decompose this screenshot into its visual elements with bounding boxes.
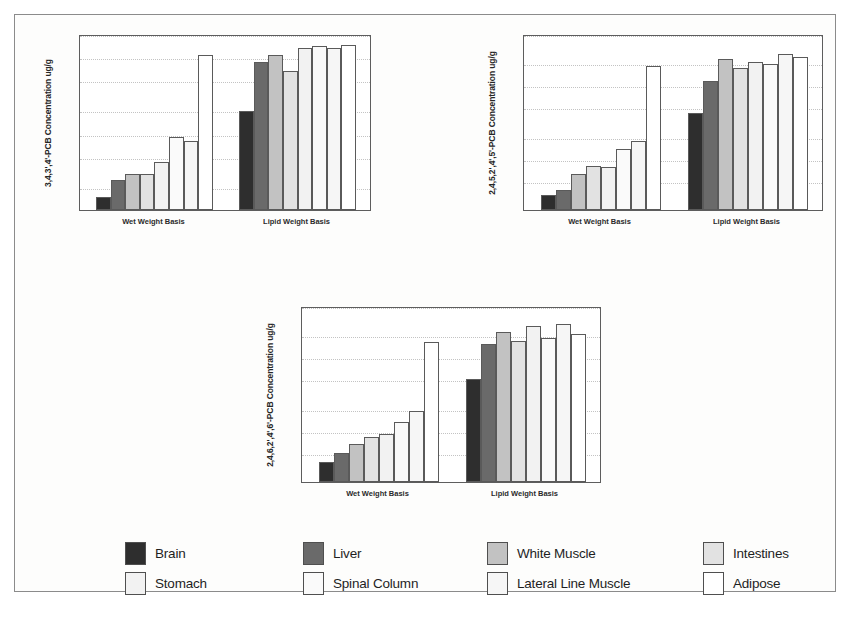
figure-frame: 3,4,3',4'-PCB Concentration ug/g0.10.20.… xyxy=(14,14,836,592)
y-tick-mark xyxy=(301,433,302,434)
bar xyxy=(778,54,793,210)
bar xyxy=(616,149,631,210)
bar xyxy=(601,167,616,210)
legend-swatch-icon xyxy=(125,572,146,595)
bar xyxy=(319,462,334,482)
bar xyxy=(379,434,394,482)
bar xyxy=(184,141,199,210)
bar xyxy=(703,81,718,210)
y-tick-mark xyxy=(301,308,302,309)
bar xyxy=(763,64,778,210)
y-tick-mark xyxy=(79,82,80,83)
gridline xyxy=(80,36,370,37)
bar xyxy=(283,71,298,210)
bar xyxy=(526,326,541,482)
legend-item[interactable]: White Muscle xyxy=(487,538,596,568)
bar xyxy=(586,166,601,210)
y-tick-mark xyxy=(523,65,524,66)
y-tick-mark xyxy=(523,161,524,162)
y-tick-mark xyxy=(79,112,80,113)
legend-label: Adipose xyxy=(733,576,780,591)
bar xyxy=(96,197,111,210)
bar xyxy=(140,174,155,210)
bar xyxy=(481,344,496,482)
bar xyxy=(556,190,571,210)
y-tick-mark xyxy=(523,183,524,184)
legend-item[interactable]: Liver xyxy=(303,538,361,568)
bar xyxy=(298,48,313,210)
bar xyxy=(334,453,349,482)
plot-area: 0.10.20.51251020 xyxy=(79,35,371,211)
bar xyxy=(349,444,364,482)
y-tick-mark xyxy=(301,411,302,412)
x-group-label: Wet Weight Basis xyxy=(568,217,631,226)
legend-label: White Muscle xyxy=(517,546,596,561)
legend-label: Spinal Column xyxy=(333,576,418,591)
legend-item[interactable]: Adipose xyxy=(703,568,780,598)
y-tick-mark xyxy=(523,36,524,37)
y-tick-mark xyxy=(523,87,524,88)
bar xyxy=(169,137,184,210)
legend-label: Lateral Line Muscle xyxy=(517,576,630,591)
bar xyxy=(125,174,140,210)
bar xyxy=(496,332,511,482)
legend-item[interactable]: Lateral Line Muscle xyxy=(487,568,630,598)
bar xyxy=(793,57,808,210)
legend-swatch-icon xyxy=(487,572,508,595)
gridline xyxy=(302,308,600,309)
bar xyxy=(718,59,733,210)
legend-swatch-icon xyxy=(303,542,324,565)
bar xyxy=(511,341,526,482)
legend-label: Stomach xyxy=(155,576,207,591)
y-axis-label: 3,4,3',4'-PCB Concentration ug/g xyxy=(43,35,53,211)
chart-panel-2: 2,4,5,2',4',5'-PCB Concentration ug/g0.2… xyxy=(477,35,837,251)
legend-swatch-icon xyxy=(703,542,724,565)
legend-label: Intestines xyxy=(733,546,789,561)
legend-swatch-icon xyxy=(487,542,508,565)
y-tick-mark xyxy=(301,455,302,456)
bar xyxy=(688,113,703,210)
bar xyxy=(111,180,126,210)
x-group-label: Lipid Weight Basis xyxy=(491,489,558,498)
x-group-label: Lipid Weight Basis xyxy=(713,217,780,226)
legend-row-top: BrainLiverWhite MuscleIntestines xyxy=(125,538,815,568)
x-group-label: Lipid Weight Basis xyxy=(263,217,330,226)
bar xyxy=(394,422,409,482)
bar xyxy=(646,66,661,210)
chart-panel-1: 3,4,3',4'-PCB Concentration ug/g0.10.20.… xyxy=(33,35,385,251)
bar xyxy=(239,111,254,211)
bar xyxy=(556,324,571,482)
bar xyxy=(254,62,269,210)
bar xyxy=(154,162,169,210)
legend-label: Liver xyxy=(333,546,361,561)
legend-swatch-icon xyxy=(125,542,146,565)
y-tick-mark xyxy=(79,159,80,160)
bar xyxy=(424,342,439,482)
y-axis-label: 2,4,6,2',4',6'-PCB Concentration ug/g xyxy=(265,307,275,483)
legend-item[interactable]: Brain xyxy=(125,538,186,568)
gridline xyxy=(524,36,822,37)
bar xyxy=(631,141,646,210)
plot-area: 0.20.5125102050 xyxy=(301,307,601,483)
chart-panel-3: 2,4,6,2',4',6'-PCB Concentration ug/g0.2… xyxy=(255,307,615,523)
legend-swatch-icon xyxy=(703,572,724,595)
legend-item[interactable]: Intestines xyxy=(703,538,789,568)
legend-item[interactable]: Spinal Column xyxy=(303,568,418,598)
bar xyxy=(541,338,556,482)
legend-item[interactable]: Stomach xyxy=(125,568,207,598)
bar xyxy=(268,55,283,210)
plot-area: 0.20.5125102050 xyxy=(523,35,823,211)
bar xyxy=(571,334,586,482)
bar xyxy=(748,62,763,210)
y-tick-mark xyxy=(301,359,302,360)
legend-row-bottom: StomachSpinal ColumnLateral Line MuscleA… xyxy=(125,568,815,598)
bar xyxy=(341,45,356,210)
y-tick-mark xyxy=(79,59,80,60)
y-tick-mark xyxy=(79,136,80,137)
legend-swatch-icon xyxy=(303,572,324,595)
bar xyxy=(327,48,342,210)
bar xyxy=(364,437,379,482)
x-group-label: Wet Weight Basis xyxy=(122,217,185,226)
y-tick-mark xyxy=(301,337,302,338)
bar xyxy=(409,411,424,482)
